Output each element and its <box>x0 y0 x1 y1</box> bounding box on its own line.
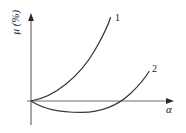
y-axis-label-text: μ (%) <box>10 10 21 35</box>
curve-1-label: 1 <box>115 13 120 23</box>
chart-plot-area <box>0 0 186 133</box>
x-axis-label: α <box>166 104 172 115</box>
y-axis-arrowhead <box>28 13 34 21</box>
curve-2-label: 2 <box>152 64 157 74</box>
chart-figure: μ (%) α 1 2 <box>0 0 186 133</box>
y-axis-label: μ (%) <box>10 21 21 35</box>
curve-2-path <box>31 72 149 113</box>
curve-1-path <box>31 18 111 102</box>
